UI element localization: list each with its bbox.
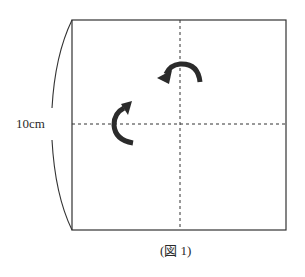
diagram-canvas bbox=[0, 0, 305, 277]
fold-arrow-top-icon bbox=[157, 64, 200, 84]
figure-caption: (図 1) bbox=[160, 240, 191, 259]
paper-square bbox=[72, 20, 286, 230]
dimension-label: 10cm bbox=[16, 116, 45, 132]
dimension-bracket-lower bbox=[52, 140, 72, 230]
dimension-bracket-upper bbox=[52, 20, 72, 108]
fold-arrow-left-icon bbox=[114, 101, 133, 143]
